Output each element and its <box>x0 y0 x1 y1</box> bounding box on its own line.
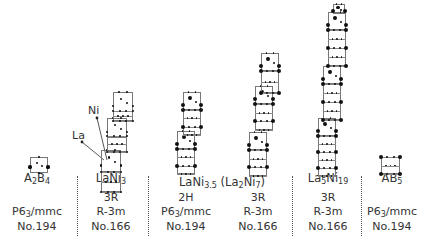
la-atom <box>253 97 257 101</box>
structure-name-la2ni7: LaNi3.5 (La2Ni7) <box>162 176 282 189</box>
ni-atom <box>336 38 338 40</box>
ni-atom <box>118 91 120 93</box>
ni-atom <box>273 62 275 64</box>
unit-cell-block <box>249 150 267 176</box>
la-atom <box>344 23 348 27</box>
la-atom <box>193 142 197 146</box>
la-atom <box>334 129 338 133</box>
ni-atom <box>334 101 336 103</box>
ni-atom <box>340 21 342 23</box>
ni-atom <box>339 47 341 49</box>
ni-atom <box>272 70 274 72</box>
unit-cell-block <box>255 104 273 130</box>
annotation-ni-label: Ni <box>88 104 99 117</box>
ni-atom <box>266 70 268 72</box>
ni-layer <box>113 111 133 112</box>
ni-atom <box>333 29 335 31</box>
ni-atom <box>188 165 190 167</box>
space-group: P63/mmc <box>0 205 77 218</box>
la-atom <box>181 103 185 107</box>
stacking-type: 2H <box>146 191 226 204</box>
space-group-number: No.194 <box>146 220 226 233</box>
ni-atom <box>115 181 117 183</box>
ni-atom <box>260 149 262 151</box>
ni-atom <box>328 83 330 85</box>
annotation-la-label: La <box>72 129 85 142</box>
unit-cell-block <box>328 12 346 30</box>
unit-cell-block <box>249 132 267 150</box>
ni-atom <box>185 173 187 175</box>
space-group-number: No.166 <box>218 220 298 233</box>
la-atom <box>339 77 343 81</box>
atom-a <box>28 165 31 168</box>
ni-atom <box>182 165 184 167</box>
ni-atom <box>269 81 271 83</box>
stacking-type: 3R <box>288 191 368 204</box>
ni-atom <box>194 126 196 128</box>
ni-atom <box>111 143 113 145</box>
ni-atom <box>334 83 336 85</box>
ni-atom <box>266 92 268 94</box>
ni-atom <box>326 159 328 161</box>
ni-atom <box>331 92 333 94</box>
la-atom <box>321 77 325 81</box>
space-group: R-3m <box>218 205 298 218</box>
ni-atom <box>267 95 269 97</box>
ni-layer <box>101 172 121 173</box>
la-atom <box>265 143 269 147</box>
ni-atom <box>335 75 337 77</box>
ni-atom <box>331 110 333 112</box>
ni-atom <box>334 119 336 121</box>
ni-atom <box>272 92 274 94</box>
ni-atom <box>257 175 259 177</box>
la-atom <box>277 64 281 68</box>
ni-atom <box>330 127 332 129</box>
ni-atom <box>329 151 331 153</box>
space-group: P63/mmc <box>352 205 429 218</box>
ni-atom <box>336 56 338 58</box>
ni-atom <box>257 158 259 160</box>
ni-layer <box>101 192 121 193</box>
ni-atom <box>116 143 118 145</box>
la-atom <box>199 103 203 107</box>
ni-atom <box>329 135 331 137</box>
unit-cell-block <box>323 66 341 84</box>
la-atom <box>259 64 263 68</box>
unit-cell-block <box>183 92 201 110</box>
ni-atom <box>333 65 335 67</box>
ni-atom <box>126 91 128 93</box>
la-atom <box>193 164 197 168</box>
ni-atom <box>189 140 191 142</box>
ni-atom <box>191 134 193 136</box>
la-atom <box>271 97 275 101</box>
atom-b <box>38 172 40 174</box>
ni-atom <box>188 148 190 150</box>
space-group-number: No.194 <box>0 220 77 233</box>
ni-atom <box>107 191 109 193</box>
ni-atom <box>323 151 325 153</box>
la-atom <box>336 6 340 10</box>
ni-layer <box>107 136 127 137</box>
ni-atom <box>110 181 112 183</box>
la-atom <box>181 125 185 129</box>
unit-cell-block <box>30 157 48 173</box>
ni-atom <box>126 102 128 104</box>
ni-atom <box>113 151 115 153</box>
la-atom <box>247 143 251 147</box>
ni-atom <box>105 181 107 183</box>
unit-cell-block <box>177 149 195 174</box>
space-group-number: No.166 <box>71 220 151 233</box>
ni-layer <box>113 121 133 122</box>
la-atom <box>326 23 330 27</box>
ni-atom <box>182 148 184 150</box>
ni-atom <box>323 135 325 137</box>
la-atom <box>175 142 179 146</box>
ni-atom <box>188 109 190 111</box>
atom-b <box>41 165 43 167</box>
ni-layer <box>107 152 127 153</box>
annotation-pointers <box>0 0 429 240</box>
ni-atom <box>260 103 262 105</box>
unit-cell-block <box>113 92 133 112</box>
ni-atom <box>263 129 265 131</box>
ni-atom <box>195 101 197 103</box>
